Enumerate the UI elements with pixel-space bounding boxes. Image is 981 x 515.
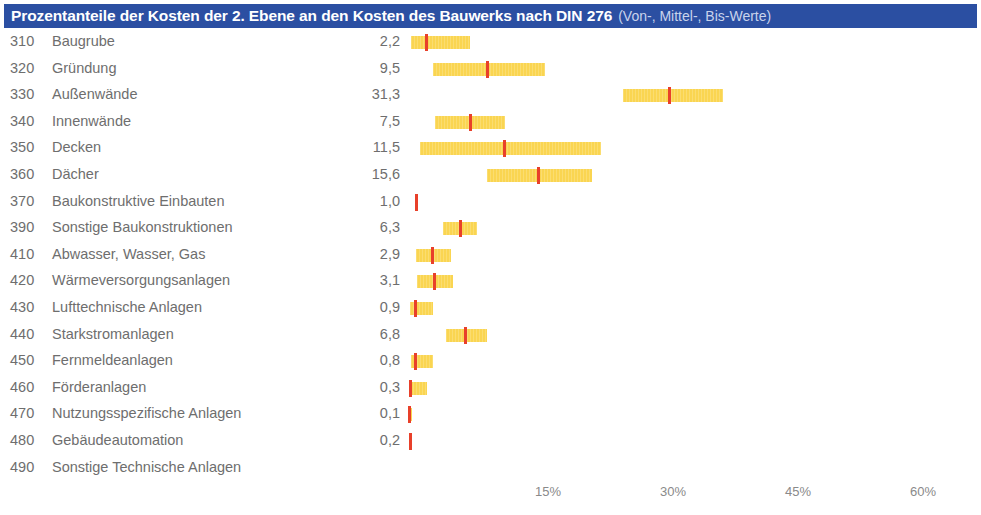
row-code: 490 <box>10 459 50 475</box>
mid-value-marker <box>408 406 411 423</box>
mid-value-marker <box>414 353 417 370</box>
mid-value-marker <box>459 220 462 237</box>
chart-row: 490Sonstige Technische Anlagen <box>0 457 981 484</box>
chart-row: 420Wärmeversorgungsanlagen3,1 <box>0 270 981 297</box>
row-bar-area <box>0 58 981 85</box>
chart-row: 440Starkstromanlagen6,8 <box>0 324 981 351</box>
range-bar <box>433 63 545 76</box>
range-bar <box>623 89 723 102</box>
mid-value-marker <box>425 34 428 51</box>
chart-row: 320Gründung9,5 <box>0 58 981 85</box>
row-bar-area <box>0 350 981 377</box>
row-bar-area <box>0 430 981 457</box>
chart-row: 450Fernmeldeanlagen0,8 <box>0 350 981 377</box>
mid-value-marker <box>469 114 472 131</box>
row-bar-area <box>0 324 981 351</box>
mid-value-marker <box>409 380 412 397</box>
chart-plot-area: 310Baugrube2,2320Gründung9,5330Außenwänd… <box>0 31 981 476</box>
chart-row: 340Innenwände7,5 <box>0 111 981 138</box>
range-bar <box>411 36 470 49</box>
row-label: Sonstige Technische Anlagen <box>52 459 241 475</box>
x-axis-tick-label: 45% <box>785 484 811 499</box>
chart-row: 370Baukonstruktive Einbauten1,0 <box>0 191 981 218</box>
range-bar <box>446 329 487 342</box>
mid-value-marker <box>414 300 417 317</box>
mid-value-marker <box>431 247 434 264</box>
row-bar-area <box>0 297 981 324</box>
mid-value-marker <box>409 433 412 450</box>
mid-value-marker <box>503 140 506 157</box>
chart-row: 480Gebäudeautomation0,2 <box>0 430 981 457</box>
chart-row: 430Lufttechnische Anlagen0,9 <box>0 297 981 324</box>
row-bar-area <box>0 111 981 138</box>
chart-row: 470Nutzungsspezifische Anlagen0,1 <box>0 403 981 430</box>
chart-row: 360Dächer15,6 <box>0 164 981 191</box>
row-bar-area <box>0 217 981 244</box>
row-bar-area <box>0 403 981 430</box>
mid-value-marker <box>433 273 436 290</box>
range-bar <box>410 302 433 315</box>
x-axis: 15%30%45%60% <box>0 484 981 504</box>
mid-value-marker <box>668 87 671 104</box>
row-bar-area <box>0 137 981 164</box>
row-bar-area <box>0 164 981 191</box>
mid-value-marker <box>537 167 540 184</box>
x-axis-tick-label: 60% <box>910 484 936 499</box>
chart-title-bar: Prozentanteile der Kosten der 2. Ebene a… <box>4 4 977 28</box>
x-axis-tick-label: 15% <box>535 484 561 499</box>
row-bar-area <box>0 270 981 297</box>
row-bar-area <box>0 377 981 404</box>
mid-value-marker <box>486 61 489 78</box>
mid-value-marker <box>415 194 418 211</box>
row-bar-area <box>0 191 981 218</box>
mid-value-marker <box>464 327 467 344</box>
chart-row: 410Abwasser, Wasser, Gas2,9 <box>0 244 981 271</box>
row-bar-area <box>0 84 981 111</box>
row-bar-area <box>0 31 981 58</box>
chart-row: 310Baugrube2,2 <box>0 31 981 58</box>
x-axis-tick-label: 30% <box>660 484 686 499</box>
range-bar <box>420 142 602 155</box>
chart-root: Prozentanteile der Kosten der 2. Ebene a… <box>0 0 981 515</box>
chart-title-subtitle: (Von-, Mittel-, Bis-Werte) <box>618 8 771 24</box>
chart-row: 350Decken11,5 <box>0 137 981 164</box>
row-bar-area <box>0 244 981 271</box>
chart-row: 330Außenwände31,3 <box>0 84 981 111</box>
chart-row: 390Sonstige Baukonstruktionen6,3 <box>0 217 981 244</box>
chart-row: 460Förderanlagen0,3 <box>0 377 981 404</box>
chart-title-main: Prozentanteile der Kosten der 2. Ebene a… <box>11 7 612 25</box>
